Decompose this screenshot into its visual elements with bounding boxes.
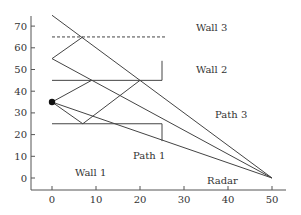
x-tick-label: 30 [178,194,191,205]
points [49,99,55,105]
source-point [49,99,55,105]
x-tick-label: 20 [134,194,147,205]
radar-label: Radar [207,175,238,186]
wall1-label: Wall 1 [75,167,106,178]
wall3-label: Wall 3 [196,22,227,33]
path1-label: Path 1 [133,150,165,161]
path3-label: Path 3 [215,109,247,120]
y-tick-label: 30 [14,107,27,118]
ray-path [52,37,83,59]
multipath-diagram: 01020304050607001020304050 Wall 3 Wall 2… [0,0,301,215]
y-tick-label: 70 [14,21,27,32]
x-tick-label: 40 [222,194,235,205]
y-tick-label: 20 [14,129,27,140]
wall-1 [52,124,162,141]
wall-2 [52,61,162,81]
x-tick-label: 50 [266,194,279,205]
wall2-label: Wall 2 [196,64,227,75]
walls [52,37,166,141]
ray-path [52,80,92,102]
x-tick-label: 0 [49,194,55,205]
y-tick-label: 60 [14,42,27,53]
y-tick-label: 0 [21,173,27,184]
x-tick-label: 10 [90,194,103,205]
y-tick-label: 40 [14,86,27,97]
y-tick-label: 10 [14,151,27,162]
axes [31,16,286,190]
y-tick-label: 50 [14,64,27,75]
